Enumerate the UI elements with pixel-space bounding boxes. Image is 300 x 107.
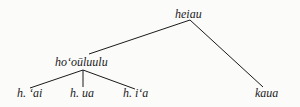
edge-heiau-kaua [190,20,263,87]
edge-heiau-hooouluulu [89,20,190,54]
node-h-ai: h. ʻai [17,87,42,99]
node-kaua: kaua [255,87,278,99]
node-h-ua: h. ua [70,87,94,99]
tree-diagram: heiau hoʻoūluulu h. ʻai h. ua h. iʻa kau… [0,0,300,107]
node-h-ia: h. iʻa [123,87,148,99]
node-hooouluulu: hoʻoūluulu [55,56,108,68]
node-heiau: heiau [175,8,202,20]
